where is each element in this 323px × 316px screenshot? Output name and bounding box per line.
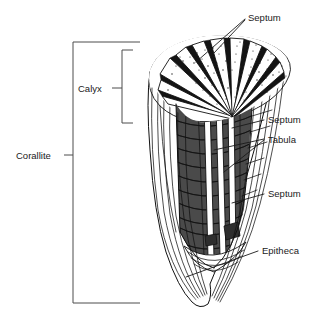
label-septum-middle: Septum: [268, 114, 301, 125]
label-corallite: Corallite: [16, 150, 51, 161]
calyx-bracket: [112, 50, 133, 123]
wall-fold: [160, 106, 176, 232]
diagram-canvas: Septum Septum Tabula Septum Epitheca Cal…: [0, 0, 323, 316]
label-septum-lower: Septum: [268, 188, 301, 199]
label-epitheca: Epitheca: [262, 245, 300, 256]
label-septum-top: Septum: [248, 12, 281, 23]
corallite-bracket: [64, 42, 140, 303]
corallite-diagram: Septum Septum Tabula Septum Epitheca Cal…: [0, 0, 323, 316]
label-tabula: Tabula: [268, 134, 297, 145]
label-calyx: Calyx: [78, 83, 102, 94]
